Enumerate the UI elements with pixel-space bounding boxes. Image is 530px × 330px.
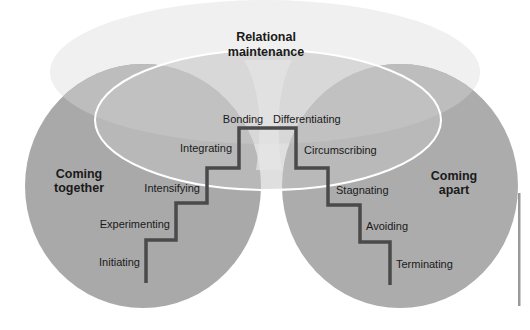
stage-avoiding: Avoiding bbox=[366, 220, 408, 232]
zone-label-left-line1: Coming bbox=[56, 167, 103, 181]
zone-label-top-line1: Relational bbox=[236, 30, 296, 44]
relationship-stages-diagram: Relational maintenance Coming together C… bbox=[0, 0, 530, 330]
stage-differentiating: Differentiating bbox=[273, 113, 341, 125]
zone-label-right-line2: apart bbox=[439, 183, 470, 197]
stage-stagnating: Stagnating bbox=[336, 184, 389, 196]
stage-circumscribing: Circumscribing bbox=[304, 144, 377, 156]
side-bar bbox=[518, 193, 521, 306]
stage-initiating: Initiating bbox=[99, 256, 140, 268]
zone-label-top-line2: maintenance bbox=[228, 45, 304, 59]
stage-terminating: Terminating bbox=[396, 258, 453, 270]
stage-experimenting: Experimenting bbox=[100, 218, 170, 230]
stage-intensifying: Intensifying bbox=[144, 182, 200, 194]
zone-label-left-line2: together bbox=[54, 181, 104, 195]
stage-integrating: Integrating bbox=[180, 142, 232, 154]
zone-label-right-line1: Coming bbox=[431, 169, 478, 183]
stage-bonding: Bonding bbox=[223, 113, 263, 125]
